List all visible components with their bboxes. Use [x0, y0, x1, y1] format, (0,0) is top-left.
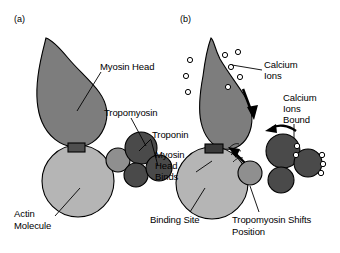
troponin-shape-b-2 [268, 167, 294, 193]
calcium-ion [237, 74, 242, 79]
panel-b-label: (b) [180, 14, 191, 24]
panel-a-label: (a) [14, 14, 25, 24]
calcium-ions-label-line1: Calcium [264, 60, 298, 71]
calcium-bound-label-line3: Bound [283, 115, 310, 126]
myosin-binds-label-line3: Binds [155, 172, 178, 183]
tropomyosin-shift-leader-b [250, 186, 259, 212]
myosin-binds-label-line2: Head [155, 161, 177, 172]
calcium-ion [222, 52, 227, 57]
binding-site-shape-b [205, 144, 223, 153]
myosin-head-shape-a [37, 38, 107, 147]
myosin-binds-label-line1: Myosin [155, 150, 185, 161]
panel-b-graphics [176, 38, 326, 219]
actin-molecule-label-line2: Molecule [14, 221, 51, 232]
tropomyosin-shifts-label-line2: Position [232, 227, 265, 238]
tropomyosin-label: Tropomyosin [104, 108, 157, 119]
tropomyosin-shape-b [238, 161, 262, 185]
bound-calcium-ion [318, 170, 323, 175]
myosin-head-label: Myosin Head [100, 62, 154, 73]
bound-calcium-ion [319, 152, 324, 157]
binding-site-shape-a [68, 143, 85, 152]
actin-molecule-shape-b [176, 147, 248, 219]
calcium-ion [235, 49, 240, 54]
troponin-label: Troponin [152, 130, 188, 141]
muscle-contraction-figure: (a) (b) Myosin Head Tropomyosin Troponin… [0, 0, 340, 253]
calcium-bound-label-line1: Calcium [283, 93, 317, 104]
binding-site-label: Binding Site [150, 215, 200, 226]
calcium-ions-leader-b [232, 65, 262, 70]
bound-calcium-ion [320, 161, 325, 166]
bound-calcium-ion [293, 152, 298, 157]
calcium-ion [183, 73, 188, 78]
calcium-ions-label-line2: Ions [264, 71, 282, 82]
troponin-shape-a-2 [124, 163, 148, 187]
tropomyosin-shifts-label-line1: Tropomyosin Shifts [232, 215, 311, 226]
calcium-bound-label-line2: Ions [283, 104, 301, 115]
bound-calcium-ion [294, 143, 299, 148]
calcium-ion [225, 84, 230, 89]
actin-molecule-shape-a [42, 145, 114, 217]
calcium-ion [185, 89, 190, 94]
calcium-ion [187, 57, 192, 62]
actin-molecule-label-line1: Actin [14, 209, 35, 220]
